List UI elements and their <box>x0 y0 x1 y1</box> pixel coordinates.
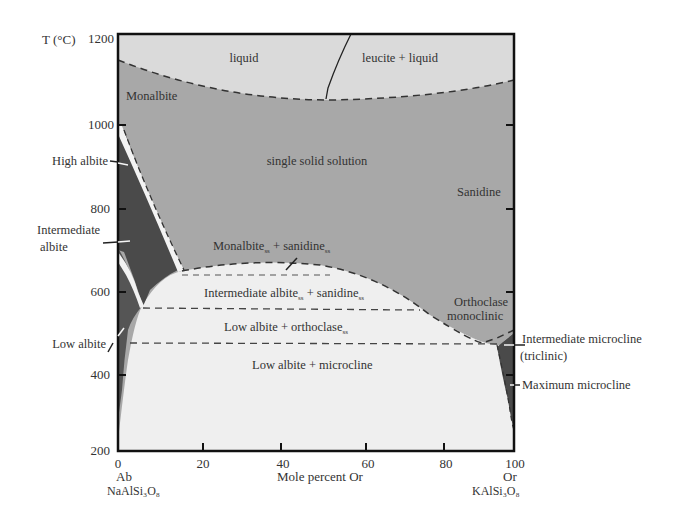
liquid-label: liquid <box>229 51 259 65</box>
y-tick-1000: 1000 <box>88 117 114 132</box>
single-solid-solution-label: single solid solution <box>267 154 368 168</box>
or-label: Or <box>503 469 517 484</box>
monalbite-sanidine-label: Monalbitess + sanidiness <box>213 239 331 255</box>
x-tick-20: 20 <box>197 456 210 471</box>
x-axis-label: Mole percent Or <box>277 469 364 484</box>
y-tick-400: 400 <box>91 367 111 382</box>
y-axis-label: T (°C) <box>42 32 75 47</box>
low-albite-orthoclase-label: Low albite + orthoclasess <box>224 320 348 336</box>
leucite-liquid-label: leucite + liquid <box>362 51 439 65</box>
x-tick-80: 80 <box>440 456 453 471</box>
intermediate-albite-sanidine-label: Intermediate albitess + sanidiness <box>204 286 364 302</box>
orthoclase-label: Orthoclase <box>454 295 509 309</box>
phase-diagram: T (°C) 1200 1000 800 600 400 200 0 20 40… <box>0 0 682 517</box>
intermediate-albite-label-line2: albite <box>40 240 68 254</box>
or-formula: KAlSi₃O₈ <box>472 484 520 498</box>
y-tick-1200: 1200 <box>88 31 114 46</box>
ab-formula: NaAlSi₃O₈ <box>107 484 160 498</box>
low-albite-microcline-label: Low albite + microcline <box>252 358 373 372</box>
maximum-microcline-label: Maximum microcline <box>522 378 631 392</box>
high-albite-label: High albite <box>52 154 108 168</box>
monoclinic-label: monoclinic <box>447 309 504 323</box>
intermediate-albite-label-line1: Intermediate <box>37 223 101 237</box>
sanidine-label: Sanidine <box>457 185 501 199</box>
y-tick-200: 200 <box>91 443 111 458</box>
y-tick-labels: 1200 1000 800 600 400 200 <box>88 31 114 458</box>
low-albite-label: Low albite <box>52 337 106 351</box>
intermediate-microcline-label: Intermediate microcline <box>522 332 642 346</box>
y-tick-600: 600 <box>91 284 111 299</box>
y-tick-800: 800 <box>91 201 111 216</box>
monalbite-label: Monalbite <box>126 89 178 103</box>
ab-label: Ab <box>116 469 132 484</box>
triclinic-label: (triclinic) <box>520 349 567 363</box>
x-tick-60: 60 <box>362 456 375 471</box>
